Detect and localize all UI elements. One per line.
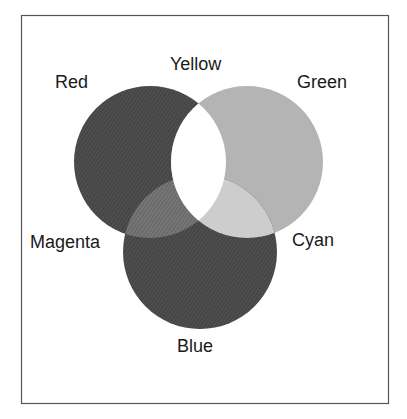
label-magenta: Magenta [30,232,101,252]
label-blue: Blue [177,336,213,356]
label-cyan: Cyan [292,230,334,250]
venn-diagram: Red Yellow Green Magenta Cyan Blue [0,0,407,419]
label-yellow: Yellow [170,54,222,74]
label-green: Green [297,72,347,92]
label-red: Red [55,72,88,92]
